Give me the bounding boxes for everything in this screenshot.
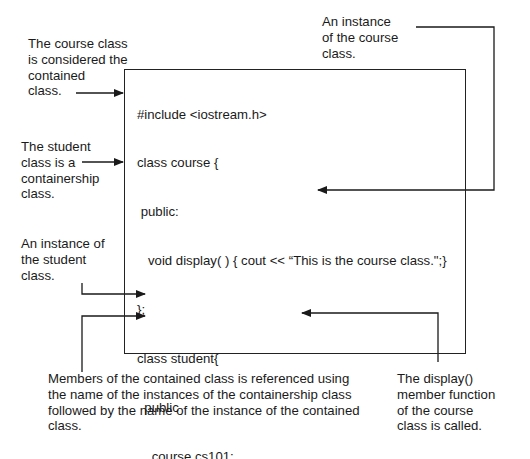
callout-line: class is called. [397,418,495,434]
callout-member-reference: Members of the contained class is refere… [48,371,360,434]
code-line: void display( ) { cout << “This is the c… [137,253,450,269]
callout-contained-class: The course class is considered the conta… [28,36,128,99]
callout-containership-class: The student class is a containership cla… [21,139,99,202]
callout-line: The student [21,139,99,155]
code-line: #include <iostream.h> [137,107,450,123]
callout-line: followed by the name of the instance of … [48,403,360,419]
callout-student-instance: An instance of the student class. [21,236,105,283]
callout-line: class. [21,186,99,202]
callout-line: class. [21,268,105,284]
callout-line: An instance [322,14,398,30]
code-line: public: [137,204,450,220]
callout-line: The course class [28,36,128,52]
callout-line: class. [28,83,128,99]
callout-course-instance: An instance of the course class. [322,14,398,61]
code-line: class course { [137,155,450,171]
code-line: course cs101; [137,449,450,459]
callout-line: class. [322,46,398,62]
code-line: class student{ [137,351,450,367]
callout-line: class. [48,418,360,434]
callout-line: of the course [322,30,398,46]
callout-display-called: The display() member function of the cou… [397,371,495,434]
callout-line: member function [397,387,495,403]
callout-line: containership [21,171,99,187]
callout-line: Members of the contained class is refere… [48,371,360,387]
callout-line: the student [21,252,105,268]
callout-line: contained [28,68,128,84]
callout-line: the name of the instances of the contain… [48,387,360,403]
code-line: }; [137,302,450,318]
callout-line: class is a [21,155,99,171]
callout-line: is considered the [28,52,128,68]
callout-line: of the course [397,403,495,419]
callout-line: The display() [397,371,495,387]
callout-line: An instance of [21,236,105,252]
